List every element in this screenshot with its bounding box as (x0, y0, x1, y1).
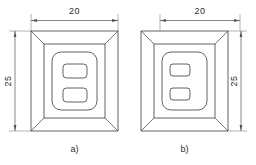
panel-b-height-label: 25 (229, 76, 239, 87)
panel-a-width-label: 20 (69, 6, 80, 16)
panel-b-upper-opening (170, 64, 190, 76)
panel-b-lower-opening (170, 88, 190, 100)
panel-a-height-label: 25 (3, 76, 13, 87)
panel-b-width-label: 20 (195, 6, 206, 16)
panel-a-caption: a) (70, 144, 78, 154)
panel-b-caption: b) (180, 144, 188, 154)
panel-a-lower-opening (63, 88, 87, 102)
technical-drawing-figure: 20 25 (0, 0, 256, 165)
panel-a-upper-opening (63, 64, 87, 78)
